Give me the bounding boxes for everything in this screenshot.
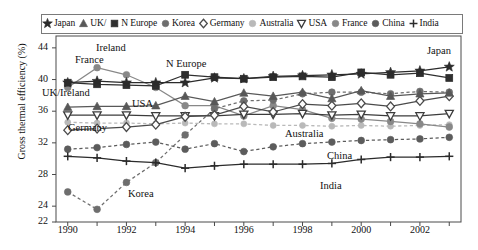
annotation-china: China — [327, 150, 352, 161]
x-tick-label: 2002 — [400, 224, 440, 235]
annotation-australia: Australia — [285, 128, 324, 139]
y-tick-label: 40 — [24, 73, 48, 84]
annotation-japan: Japan — [427, 45, 451, 56]
series-usa — [64, 110, 454, 120]
chart-figure: JapanUK/N EuropeKoreaGermanyAustraliaUSA… — [0, 0, 478, 250]
x-tick-label: 1994 — [165, 224, 205, 235]
y-tick-label: 28 — [24, 168, 48, 179]
x-tick-label: 2000 — [341, 224, 381, 235]
annotation-india: India — [320, 180, 342, 191]
y-tick-label: 36 — [24, 104, 48, 115]
x-tick-label: 1998 — [283, 224, 323, 235]
annotation-ireland: Ireland — [96, 42, 126, 53]
series-india — [64, 152, 454, 172]
annotation-uk-ireland: UK/Ireland — [42, 87, 90, 98]
annotation-usa: USA — [132, 98, 153, 109]
annotation-germany: Germany — [68, 122, 107, 133]
annotation-n-europe: N Europe — [166, 58, 207, 69]
y-tick-label: 44 — [24, 41, 48, 52]
series-china — [64, 134, 452, 155]
y-tick-label: 22 — [24, 215, 48, 226]
y-tick-label: 32 — [24, 136, 48, 147]
annotation-korea: Korea — [128, 188, 154, 199]
x-tick-label: 1990 — [48, 224, 88, 235]
y-tick-label: 24 — [24, 199, 48, 210]
x-tick-label: 1996 — [224, 224, 264, 235]
annotation-france: France — [75, 54, 104, 65]
x-tick-label: 1992 — [106, 224, 146, 235]
